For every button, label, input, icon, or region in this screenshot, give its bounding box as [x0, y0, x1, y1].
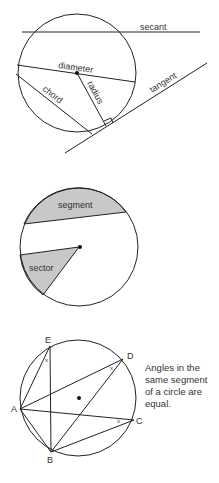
label-chord: chord [41, 84, 65, 106]
line-EB [50, 346, 51, 452]
point-C: C [136, 416, 143, 426]
line-EA [20, 346, 50, 409]
line-AB [20, 409, 51, 452]
center-dot-3 [77, 396, 81, 400]
note-line: Angles in the [145, 362, 217, 374]
chord-line [16, 74, 92, 134]
point-D: D [127, 351, 134, 361]
circle-diagrams: secant diameter chord radius tangent seg… [0, 0, 219, 483]
point-A: A [11, 404, 17, 414]
angle-mark-C: x [117, 418, 120, 424]
right-angle-mark [104, 118, 113, 123]
note-line: equal. [145, 398, 217, 410]
label-segment: segment [58, 200, 93, 210]
angle-mark-D: x [110, 365, 113, 371]
angles-note: Angles in the same segment of a circle a… [145, 362, 217, 410]
label-sector: sector [29, 263, 54, 273]
note-line: of a circle are [145, 386, 217, 398]
center-dot-2 [78, 245, 82, 249]
figure-circle-parts [16, 14, 207, 153]
point-E: E [45, 335, 51, 345]
note-line: same segment [145, 374, 217, 386]
label-secant: secant [140, 22, 167, 32]
line-AD [20, 359, 123, 409]
label-radius: radius [85, 79, 106, 106]
angle-mark-E: x [45, 357, 48, 363]
point-B: B [47, 455, 53, 465]
